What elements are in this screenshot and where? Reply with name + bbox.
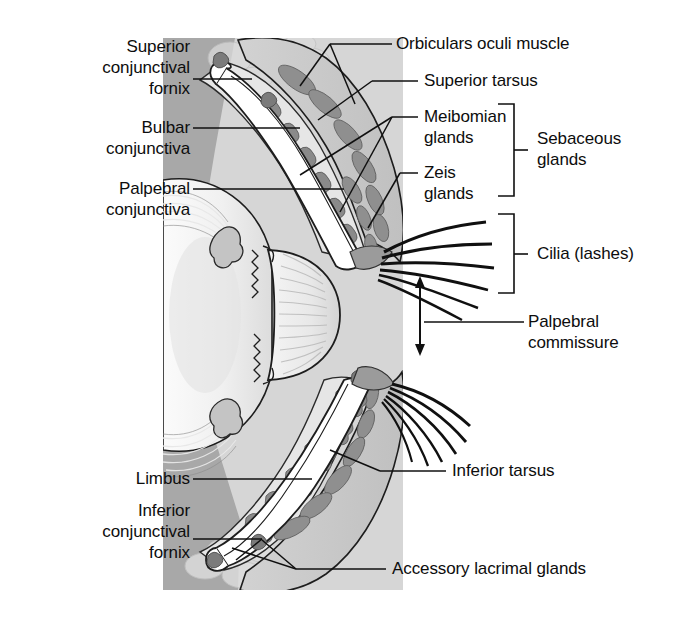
label-orbicularis-oculi-muscle: Orbiculars oculi muscle bbox=[396, 33, 569, 54]
illustration-panel bbox=[163, 34, 404, 593]
label-meibomian-glands: Meibomian glands bbox=[424, 106, 506, 148]
label-palpebral-conjunctiva: Palpebral conjunctiva bbox=[40, 178, 190, 220]
label-inferior-tarsus: Inferior tarsus bbox=[452, 460, 554, 481]
palpebral-commissure-arrow bbox=[415, 276, 425, 356]
label-bulbar-conjunctiva: Bulbar conjunctiva bbox=[40, 117, 190, 159]
label-superior-tarsus: Superior tarsus bbox=[424, 70, 538, 91]
eyelid-anatomy-figure: Superior conjunctival fornix Bulbar conj… bbox=[0, 0, 691, 633]
label-sebaceous-glands: Sebaceous glands bbox=[537, 128, 621, 170]
label-limbus: Limbus bbox=[40, 468, 190, 489]
label-palpebral-commissure: Palpebral commissure bbox=[528, 311, 619, 353]
bracket-cilia bbox=[498, 214, 528, 293]
plica-semilunaris-inferior bbox=[210, 399, 243, 438]
label-zeis-glands: Zeis glands bbox=[424, 162, 474, 204]
label-superior-conjunctival-fornix: Superior conjunctival fornix bbox=[40, 36, 190, 99]
label-inferior-conjunctival-fornix: Inferior conjunctival fornix bbox=[40, 500, 190, 563]
label-accessory-lacrimal-glands: Accessory lacrimal glands bbox=[392, 558, 586, 579]
label-cilia-lashes: Cilia (lashes) bbox=[537, 243, 634, 264]
